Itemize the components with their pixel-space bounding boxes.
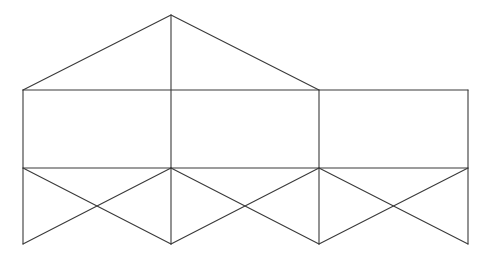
- diagram-canvas: [0, 0, 487, 257]
- roof-right-edge-line: [171, 15, 319, 90]
- house-net-drawing: [0, 0, 487, 257]
- roof-left-edge-line: [23, 15, 171, 90]
